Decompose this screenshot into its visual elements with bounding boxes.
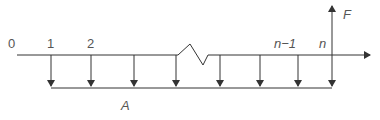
cash-flow-diagram: 0 1 2 n−1 n F A: [0, 0, 380, 120]
annuity-label: A: [120, 98, 130, 113]
time-axis: [17, 44, 370, 65]
period-label-2: 2: [87, 36, 94, 51]
axis-break-icon: [178, 44, 208, 65]
period-label-1: 1: [47, 36, 54, 51]
future-value-label: F: [343, 7, 352, 22]
period-label-n: n: [319, 36, 326, 51]
period-label-n-minus-1: n−1: [274, 36, 296, 51]
period-label-0: 0: [8, 36, 15, 51]
annuity-payments: [51, 55, 332, 86]
